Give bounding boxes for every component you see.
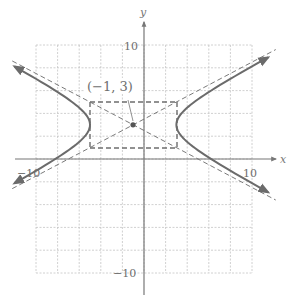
y-tick-neg10: −10 [113,267,136,280]
x-tick-10: 10 [243,167,257,180]
x-tick-neg10: −10 [17,167,40,180]
y-tick-10: 10 [124,40,138,53]
left-branch [14,66,90,183]
hyperbola-graph: x y −10 10 10 −10 (−1, 3) [0,0,288,303]
center-point [130,122,135,127]
center-leader-line [128,100,133,121]
axes: x y [15,6,287,295]
center-label: (−1, 3) [87,79,133,94]
y-axis-label: y [139,6,147,19]
x-axis-label: x [280,153,287,166]
